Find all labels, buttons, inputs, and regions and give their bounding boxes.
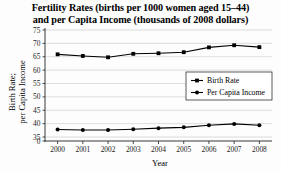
data-point-per-capita-income: [81, 128, 85, 132]
data-point-per-capita-income: [106, 128, 110, 132]
x-tick-label: 2004: [151, 145, 166, 154]
chart-legend: Birth RatePer Capita Income: [186, 72, 272, 100]
x-tick-label: 2003: [126, 145, 141, 154]
legend-label: Birth Rate: [207, 76, 240, 85]
y-tick-label: 70: [33, 39, 41, 48]
data-point-birth-rate: [207, 45, 211, 49]
x-axis-title: Year: [152, 158, 168, 168]
legend-marker-square: [195, 79, 199, 83]
y-tick-label: 50: [33, 92, 41, 101]
y-tick-label: 40: [33, 119, 41, 128]
y-tick-label: 60: [33, 66, 41, 75]
data-point-per-capita-income: [207, 123, 211, 127]
y-tick-label: 35: [33, 133, 41, 142]
x-axis-tick-labels: 200020012002200320042005200620072008: [50, 145, 267, 154]
x-tick-label: 2000: [50, 145, 65, 154]
y-tick-label: 65: [33, 52, 41, 61]
x-tick-label: 2002: [101, 145, 116, 154]
chart-plot-area: 0354045505560657075 20002001200220032004…: [0, 0, 281, 170]
data-point-birth-rate: [232, 43, 236, 47]
data-point-birth-rate: [56, 52, 60, 56]
x-tick-label: 2006: [202, 145, 217, 154]
y-axis-title-line-2: per Capita Income: [17, 60, 27, 124]
data-point-per-capita-income: [182, 125, 186, 129]
x-tick-label: 2007: [227, 145, 242, 154]
data-point-per-capita-income: [232, 122, 236, 126]
data-point-birth-rate: [157, 51, 161, 55]
data-point-per-capita-income: [131, 127, 135, 131]
data-point-birth-rate: [106, 55, 110, 59]
chart-figure: Fertility Rates (births per 1000 women a…: [0, 0, 281, 170]
series-line-birth-rate: [58, 45, 260, 57]
x-tick-label: 2001: [75, 145, 90, 154]
y-axis-title-line-1: Birth Rate;: [7, 73, 17, 111]
data-point-per-capita-income: [157, 126, 161, 130]
data-point-per-capita-income: [56, 128, 60, 132]
x-tick-label: 2005: [176, 145, 191, 154]
legend-marker-circle: [195, 91, 199, 95]
data-point-birth-rate: [131, 52, 135, 56]
y-tick-label: 45: [33, 106, 41, 115]
x-tick-label: 2008: [252, 145, 267, 154]
y-axis-tick-labels: 0354045505560657075: [33, 26, 41, 146]
legend-label: Per Capita Income: [207, 88, 266, 97]
data-point-birth-rate: [81, 54, 85, 58]
y-tick-label: 75: [33, 26, 41, 35]
y-tick-label: 55: [33, 79, 41, 88]
data-point-per-capita-income: [257, 123, 261, 127]
data-point-birth-rate: [182, 50, 186, 54]
data-point-birth-rate: [257, 45, 261, 49]
